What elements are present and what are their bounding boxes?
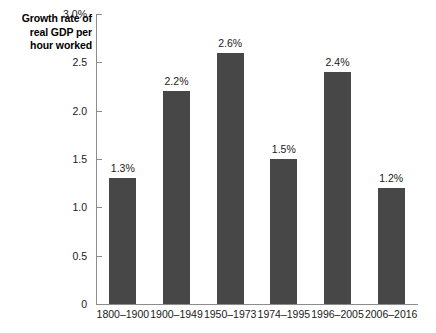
y-tick-label: 2.5 (72, 56, 87, 68)
gdp-growth-bar-chart: Growth rate of real GDP per hour worked … (0, 0, 436, 333)
bar-value-label: 1.2% (379, 172, 403, 184)
x-tick-label: 1800–1900 (97, 308, 150, 320)
x-tick-label: 1974–1995 (258, 308, 311, 320)
x-tick-label: 1900–1949 (150, 308, 203, 320)
x-tick-label: 1996–2005 (311, 308, 364, 320)
x-axis-line (96, 304, 418, 305)
bar-value-label: 2.2% (165, 75, 189, 87)
y-tick-mark (97, 62, 102, 63)
x-tick-label: 1950–1973 (204, 308, 257, 320)
bar[interactable] (109, 178, 136, 304)
bar[interactable] (163, 91, 190, 304)
bar-value-label: 2.6% (218, 37, 242, 49)
bar-value-label: 2.4% (326, 56, 350, 68)
x-tick-label: 2006–2016 (365, 308, 418, 320)
y-tick-label: 3.0% (63, 8, 87, 20)
bar-value-label: 1.3% (111, 162, 135, 174)
chart-title-line-2: real GDP per (8, 26, 92, 40)
y-tick-mark (97, 207, 102, 208)
plot-area: 00.51.01.52.02.53.0% 1.3%2.2%2.6%1.5%2.4… (96, 14, 418, 305)
bar[interactable] (324, 72, 351, 304)
bar[interactable] (270, 159, 297, 304)
bar[interactable] (217, 53, 244, 304)
y-tick-mark (97, 111, 102, 112)
y-tick-label: 0 (81, 298, 87, 310)
y-tick-mark (97, 159, 102, 160)
y-tick-label: 0.5 (72, 250, 87, 262)
y-tick-label: 2.0 (72, 105, 87, 117)
chart-title-line-3: hour worked (8, 39, 92, 53)
y-tick-mark (97, 14, 102, 15)
y-tick-label: 1.5 (72, 153, 87, 165)
bar-value-label: 1.5% (272, 143, 296, 155)
y-tick-label: 1.0 (72, 201, 87, 213)
y-tick-mark (97, 256, 102, 257)
bar[interactable] (378, 188, 405, 304)
